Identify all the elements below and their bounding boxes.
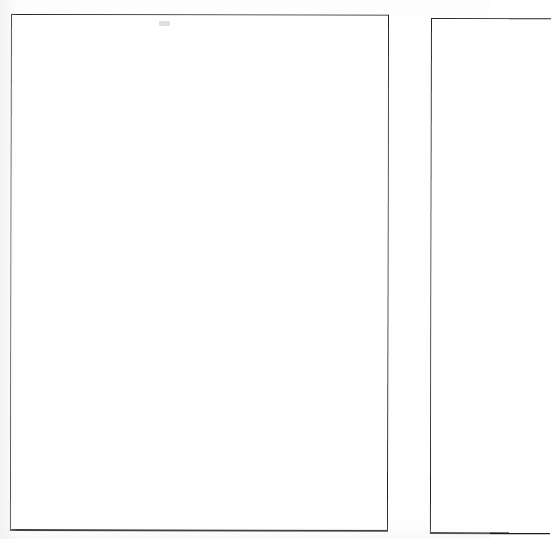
page-outline-left: [10, 14, 389, 532]
page-surface-left: [11, 15, 388, 530]
page-surface-right: [431, 19, 551, 532]
page-outline-right: [430, 18, 551, 534]
